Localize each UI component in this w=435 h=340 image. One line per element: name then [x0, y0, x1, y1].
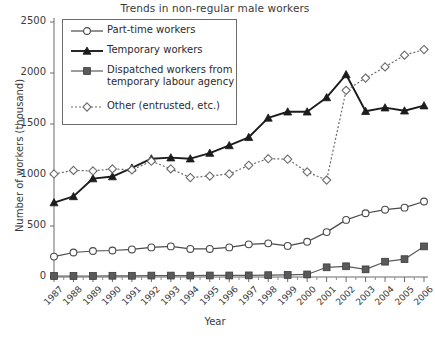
data-point-marker — [226, 272, 233, 279]
data-point-marker — [245, 161, 253, 169]
data-point-marker — [342, 86, 350, 94]
data-point-marker — [167, 272, 174, 279]
data-point-marker — [304, 238, 311, 245]
data-point-marker — [128, 246, 135, 253]
legend-item-label: Dispatched workers from temporary labour… — [105, 64, 234, 88]
data-point-marker — [245, 272, 252, 279]
data-point-marker — [284, 155, 292, 163]
data-point-marker — [167, 243, 174, 250]
legend-item-label: Temporary workers — [105, 44, 203, 56]
data-point-marker — [382, 258, 389, 265]
legend-item-label: Part-time workers — [105, 24, 195, 36]
data-point-marker — [284, 272, 291, 279]
data-point-marker — [264, 155, 272, 163]
data-point-marker — [400, 51, 408, 59]
chart-legend: Part-time workersTemporary workersDispat… — [62, 19, 237, 125]
y-axis-tick-label: 1000 — [6, 168, 46, 179]
data-point-marker — [186, 173, 194, 181]
open-circle-marker-icon — [69, 24, 105, 37]
data-point-marker — [420, 45, 428, 53]
data-point-marker — [265, 272, 272, 279]
data-point-marker — [148, 272, 155, 279]
data-point-marker — [420, 102, 428, 109]
legend-item[interactable]: Part-time workers — [69, 24, 195, 37]
data-point-marker — [83, 103, 91, 111]
y-axis-tick-label: 2500 — [6, 15, 46, 26]
data-point-marker — [84, 28, 91, 35]
data-point-marker — [89, 167, 97, 175]
data-point-marker — [421, 243, 428, 250]
y-axis-tick-label: 500 — [6, 219, 46, 230]
data-point-marker — [303, 168, 311, 176]
data-point-marker — [84, 68, 91, 75]
data-point-marker — [226, 244, 233, 251]
y-axis-tick-label: 0 — [6, 270, 46, 281]
data-point-marker — [109, 272, 116, 279]
data-point-marker — [381, 63, 389, 71]
data-point-marker — [323, 176, 331, 184]
legend-item-label: Other (entrusted, etc.) — [105, 100, 220, 112]
data-point-marker — [342, 71, 350, 78]
data-point-marker — [343, 263, 350, 270]
data-point-marker — [206, 246, 213, 253]
data-point-marker — [167, 165, 175, 173]
legend-item[interactable]: Other (entrusted, etc.) — [69, 100, 220, 113]
data-point-marker — [109, 247, 116, 254]
data-point-marker — [323, 229, 330, 236]
data-point-marker — [323, 264, 330, 271]
data-point-marker — [304, 271, 311, 278]
y-axis-tick-label: 1500 — [6, 117, 46, 128]
legend-item[interactable]: Temporary workers — [69, 44, 203, 57]
legend-item[interactable]: Dispatched workers from temporary labour… — [69, 64, 234, 88]
data-point-marker — [401, 204, 408, 211]
data-point-marker — [90, 248, 97, 255]
data-point-marker — [70, 273, 77, 280]
data-point-marker — [284, 242, 291, 249]
data-point-marker — [70, 249, 77, 256]
data-point-marker — [90, 273, 97, 280]
filled-triangle-marker-icon — [69, 44, 105, 57]
data-point-marker — [362, 210, 369, 217]
data-point-marker — [51, 253, 58, 260]
data-point-marker — [108, 165, 116, 173]
open-diamond-marker-icon — [69, 100, 105, 113]
data-point-marker — [206, 172, 214, 180]
data-point-marker — [362, 266, 369, 273]
data-point-marker — [187, 272, 194, 279]
filled-square-marker-icon — [69, 64, 105, 77]
data-point-marker — [51, 273, 58, 280]
data-point-marker — [382, 206, 389, 213]
y-axis-tick-label: 2000 — [6, 66, 46, 77]
data-point-marker — [69, 166, 77, 174]
data-point-marker — [128, 272, 135, 279]
data-point-marker — [361, 74, 369, 82]
data-point-marker — [343, 216, 350, 223]
data-point-marker — [187, 246, 194, 253]
data-point-marker — [421, 198, 428, 205]
data-point-marker — [265, 240, 272, 247]
data-point-marker — [50, 170, 58, 178]
data-point-marker — [148, 244, 155, 251]
data-point-marker — [245, 241, 252, 248]
data-point-marker — [401, 256, 408, 263]
data-point-marker — [225, 170, 233, 178]
data-point-marker — [206, 272, 213, 279]
